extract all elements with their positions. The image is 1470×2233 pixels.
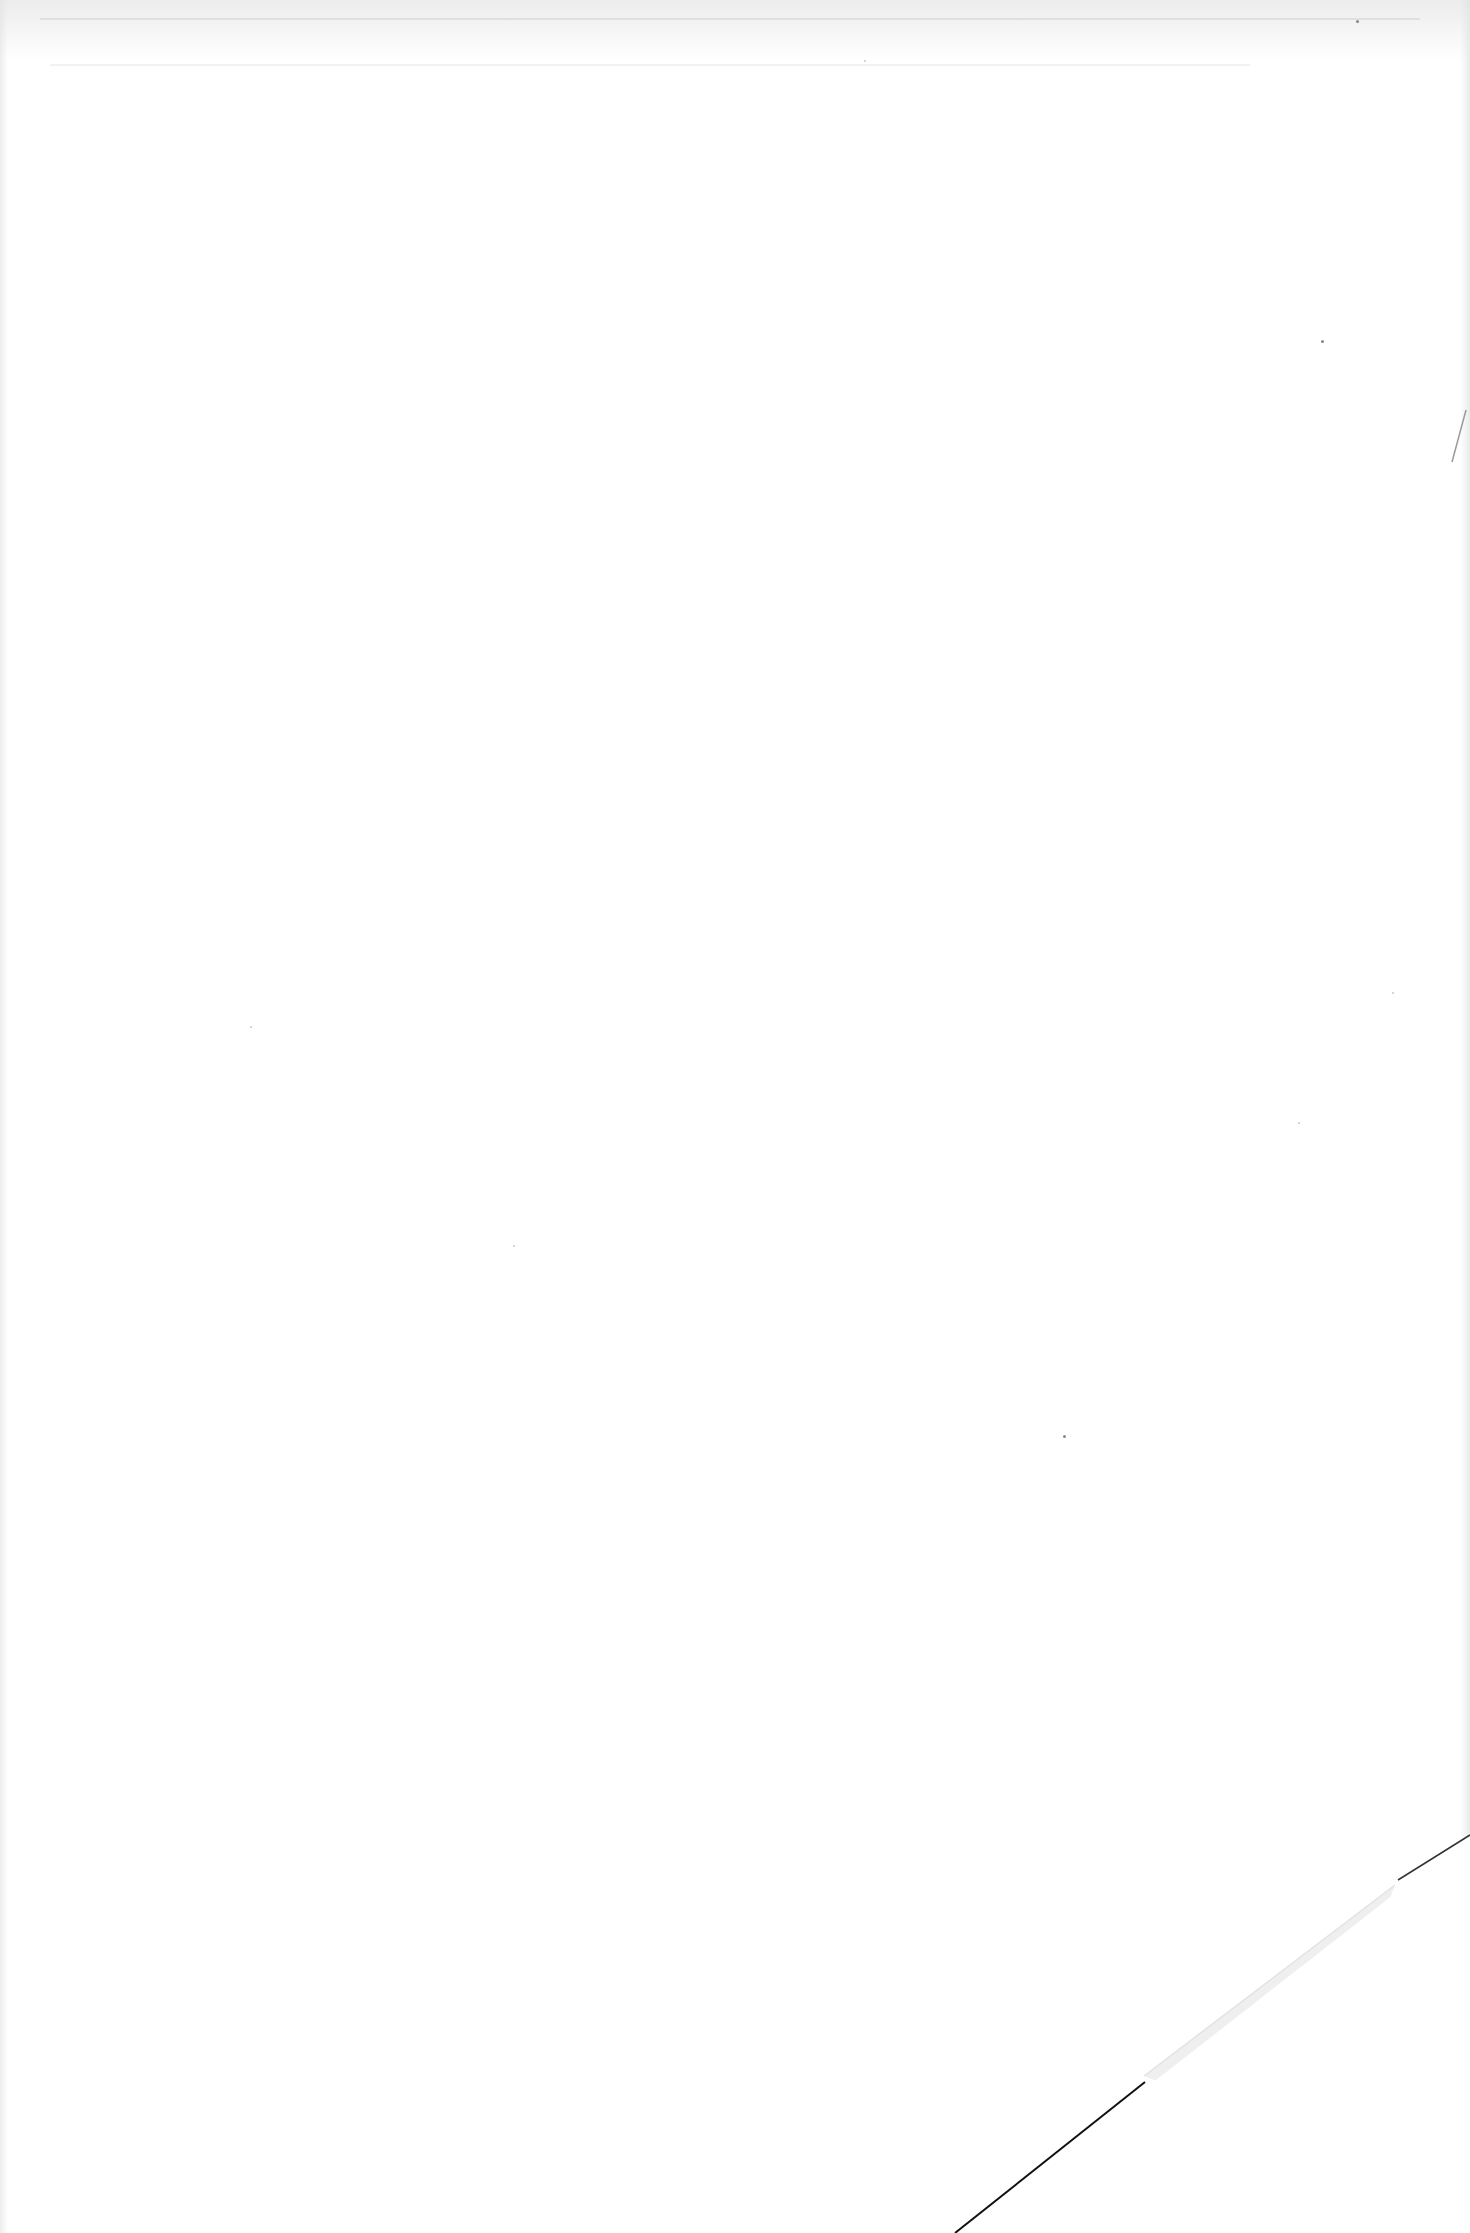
outside-page-area (960, 1835, 1470, 2233)
blank-document-page (0, 0, 1470, 2233)
page-curl-mark (1452, 410, 1466, 462)
folded-corner-graphic (0, 0, 1470, 2233)
